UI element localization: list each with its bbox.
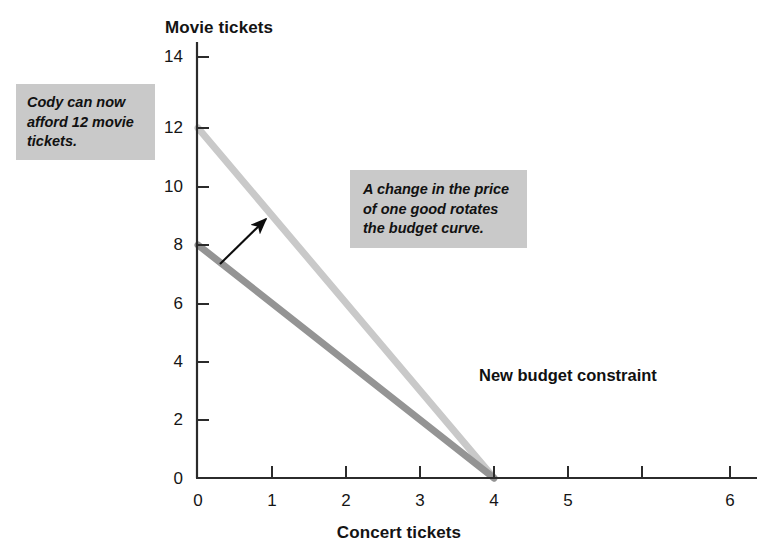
y-tick-label-0: 0 (174, 469, 183, 489)
series-line-original-budget-constraint (198, 245, 494, 478)
x-axis-ticks (272, 466, 730, 478)
y-axis-title: Movie tickets (165, 18, 273, 38)
y-axis-ticks (197, 57, 209, 420)
x-tick-label-0: 0 (193, 491, 202, 511)
callout-right-line-2: of one good rotates (363, 200, 515, 220)
x-tick-label-2: 2 (341, 491, 350, 511)
x-tick-label-1: 1 (267, 491, 276, 511)
x-tick-label-4: 4 (489, 491, 498, 511)
series-label-new-budget-constraint: New budget constraint (479, 366, 657, 385)
callout-left-line-1: Cody can now (27, 93, 144, 113)
rotation-arrow-icon (220, 219, 266, 264)
x-tick-label-5: 5 (563, 491, 572, 511)
x-tick-label-3: 3 (415, 491, 424, 511)
callout-left-line-2: afford 12 movie (27, 113, 144, 133)
x-tick-label-6: 6 (725, 491, 734, 511)
y-tick-label-10: 10 (164, 177, 183, 197)
y-tick-label-4: 4 (174, 352, 183, 372)
callout-right-line-1: A change in the price (363, 180, 515, 200)
y-tick-label-6: 6 (174, 294, 183, 314)
y-tick-label-14: 14 (164, 47, 183, 67)
callout-right-line-3: the budget curve. (363, 219, 515, 239)
y-tick-label-2: 2 (174, 410, 183, 430)
annotation-callout-left: Cody can now afford 12 movie tickets. (16, 84, 155, 160)
chart-figure: Movie tickets Concert tickets 14 12 10 8… (0, 0, 767, 557)
y-tick-label-12: 12 (164, 118, 183, 138)
y-tick-label-8: 8 (174, 235, 183, 255)
callout-left-line-3: tickets. (27, 132, 144, 152)
annotation-callout-right: A change in the price of one good rotate… (350, 170, 527, 248)
x-axis-title: Concert tickets (337, 523, 461, 543)
